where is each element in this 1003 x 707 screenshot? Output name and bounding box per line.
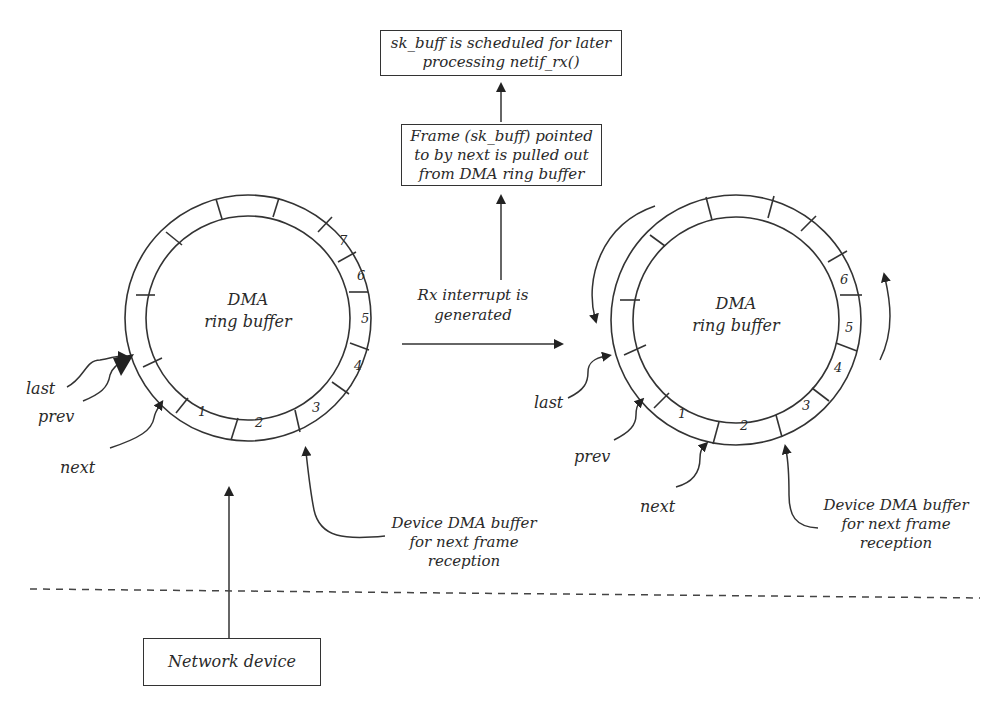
left-next-arrow [110,405,160,448]
slot-2: 2 [254,415,263,430]
rotation-right-arrow [880,278,890,360]
scheduled-box: sk_buff is scheduled for later processin… [380,30,622,76]
diagram-canvas: 1 2 3 4 5 6 7 DMA ring buffer last prev … [0,0,1003,707]
scheduled-box-line-2: processing netif_rx() [381,53,621,72]
left-last-label: last [26,379,56,398]
kernel-hardware-divider [30,589,980,598]
right-device-buffer-label-1: Device DMA buffer [822,496,969,514]
pulled-box-line-1: Frame (sk_buff) pointed [402,127,601,146]
right-last-arrow [568,356,606,398]
right-prev-arrow [614,402,640,440]
right-slot-4: 4 [833,360,842,375]
slot-3: 3 [312,400,320,415]
left-device-buffer-label-1: Device DMA buffer [390,514,537,532]
left-next-label: next [60,458,96,477]
right-slot-5: 5 [845,320,853,335]
network-device-box: Network device [143,638,321,686]
right-ring-title-1: DMA [715,294,757,313]
right-ring-title-2: ring buffer [692,316,781,335]
left-last-arrow [67,356,122,387]
right-slot-3: 3 [802,398,810,413]
left-device-buffer-label-3: reception [428,552,500,570]
right-pointer-arrows [568,356,818,528]
left-ring-title-2: ring buffer [204,312,293,331]
pulled-box-line-2: to by next is pulled out [402,146,601,165]
slot-1: 1 [198,404,206,419]
slot-6: 6 [357,268,365,283]
slot-4: 4 [353,358,362,373]
right-next-arrow [676,446,704,487]
pulled-box-line-3: from DMA ring buffer [402,165,601,184]
right-slot-1: 1 [678,406,686,421]
right-last-label: last [534,393,564,412]
slot-5: 5 [361,311,369,326]
right-slot-2: 2 [739,418,748,433]
left-device-buffer-arrow [306,452,385,538]
left-device-buffer-label-2: for next frame [408,533,518,551]
rotation-left-arrow [592,206,655,318]
rx-interrupt-label-2: generated [434,306,512,324]
slot-7: 7 [339,233,348,248]
right-device-buffer-label-3: reception [860,534,932,552]
right-prev-label: prev [574,447,610,466]
pulled-box: Frame (sk_buff) pointed to by next is pu… [401,124,602,186]
left-ring-slot-numbers: 1 2 3 4 5 6 7 [198,233,369,430]
right-device-buffer-arrow [786,450,818,528]
left-ring-title-1: DMA [227,290,269,309]
right-slot-6: 6 [840,272,848,287]
right-device-buffer-label-2: for next frame [840,515,950,533]
rx-interrupt-label-1: Rx interrupt is [417,286,529,304]
right-next-label: next [640,497,676,516]
scheduled-box-line-1: sk_buff is scheduled for later [381,34,621,53]
left-pointer-arrows [67,356,385,538]
left-prev-label: prev [38,407,74,426]
right-ring-slot-numbers: 1 2 3 4 5 6 [678,272,853,433]
